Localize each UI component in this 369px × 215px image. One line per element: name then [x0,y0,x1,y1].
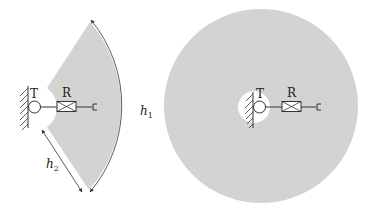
diagram-canvas: T R h1 h2 [0,0,369,215]
sector-diagram: T R h1 h2 [20,20,153,192]
dimension-label-h2: h2 [46,157,59,173]
receiver-icon [282,102,301,112]
dimension-label-h1: h1 [140,104,153,120]
wall-icon [20,86,28,130]
transmitter-icon [29,101,41,113]
transmitter-label: T [256,87,264,101]
transmitter-label: T [30,87,38,101]
receiver-label: R [62,86,72,100]
transmitter-icon [254,101,266,113]
receiver-icon [57,102,76,112]
receiver-label: R [287,86,297,100]
disc-diagram: T R [164,9,358,203]
